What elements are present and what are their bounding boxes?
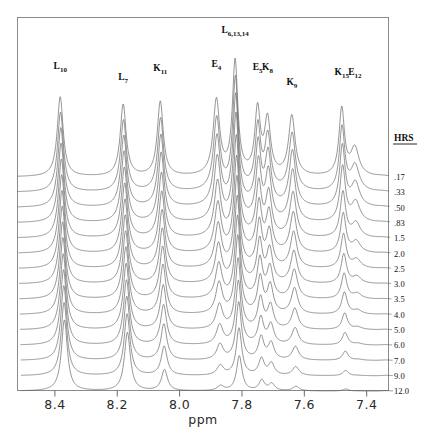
x-axis-title: ppm	[188, 412, 218, 427]
nmr-stack-plot-figure: 8.48.28.07.87.67.4 ppm L10L7K11E4L6,13,1…	[0, 0, 433, 445]
hours-legend-value: 3.5	[394, 294, 405, 304]
hours-legend-header: HRS	[394, 133, 414, 143]
x-axis-tick-label: 8.4	[44, 397, 65, 412]
hours-legend-value: 1.5	[394, 233, 405, 243]
hours-legend-value: 2.0	[394, 249, 405, 259]
hours-legend-value: 7.0	[394, 356, 405, 366]
hours-legend-value: 4.0	[394, 310, 405, 320]
x-axis-tick-label: 8.2	[107, 397, 128, 412]
hours-legend-value: 3.0	[394, 279, 405, 289]
hours-legend-value: .50	[394, 203, 405, 213]
hours-legend-value: 9.0	[394, 371, 405, 381]
hours-legend-value: 12.0	[394, 386, 409, 396]
x-axis-tick-label: 8.0	[169, 397, 190, 412]
x-axis-tick-label: 7.8	[231, 397, 252, 412]
hours-legend-value: .17	[394, 172, 405, 182]
hours-legend-value: 5.0	[394, 325, 405, 335]
hours-legend-value: .83	[394, 218, 405, 228]
hours-legend-value: 6.0	[394, 340, 405, 350]
hours-legend-value: .33	[394, 187, 405, 197]
x-axis-tick-label: 7.4	[356, 397, 377, 412]
hours-legend-value: 2.5	[394, 264, 405, 274]
x-axis-tick-label: 7.6	[294, 397, 315, 412]
